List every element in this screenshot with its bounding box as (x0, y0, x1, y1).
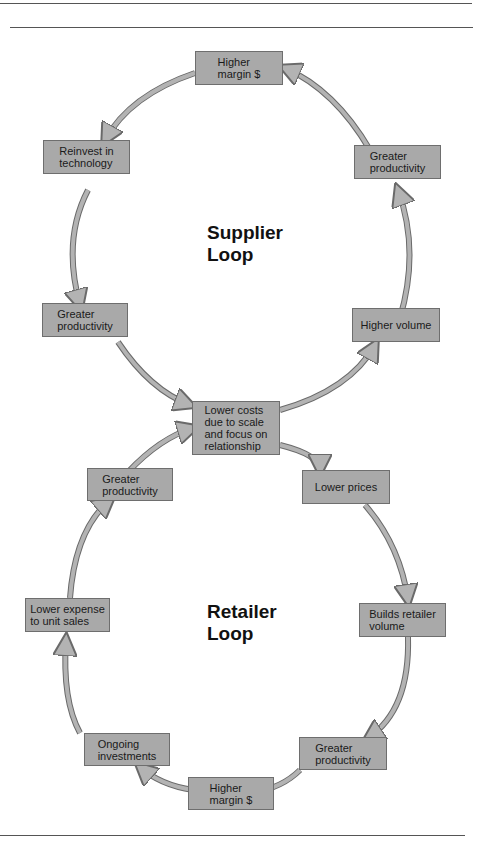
node-label: Greater productivity (315, 742, 371, 766)
node-label: Lower costs due to scale and focus on re… (205, 404, 268, 452)
node-label: Higher margin $ (218, 56, 261, 80)
node-label: Greater productivity (57, 308, 113, 332)
node-label: Reinvest in technology (59, 145, 113, 169)
node-label: Builds retailer volume (369, 608, 436, 632)
node-label: Higher volume (361, 319, 432, 331)
node-label: Lower expense to unit sales (30, 603, 105, 627)
node-label: Ongoing investments (98, 738, 157, 762)
node-higher-volume: Higher volume (352, 308, 440, 342)
node-retailer-greater-productivity-right: Greater productivity (299, 737, 387, 770)
node-reinvest-technology: Reinvest in technology (43, 140, 130, 174)
node-lower-expense: Lower expense to unit sales (25, 598, 110, 632)
node-label: Higher margin $ (210, 782, 253, 806)
supplier-loop-title: Supplier Loop (207, 222, 283, 266)
node-label: Greater productivity (370, 150, 426, 174)
node-supplier-greater-productivity-right: Greater productivity (354, 145, 441, 179)
node-label: Greater productivity (102, 473, 158, 497)
node-ongoing-investments: Ongoing investments (84, 733, 170, 766)
node-builds-retailer-volume: Builds retailer volume (359, 603, 446, 637)
node-lower-prices: Lower prices (302, 470, 390, 504)
node-label: Lower prices (315, 481, 377, 493)
node-supplier-higher-margin: Higher margin $ (195, 51, 283, 85)
retailer-loop-title: Retailer Loop (207, 601, 277, 645)
node-supplier-greater-productivity-left: Greater productivity (42, 303, 128, 337)
node-lower-costs: Lower costs due to scale and focus on re… (192, 401, 280, 455)
node-retailer-higher-margin: Higher margin $ (188, 777, 274, 810)
node-retailer-greater-productivity-left: Greater productivity (87, 468, 173, 501)
